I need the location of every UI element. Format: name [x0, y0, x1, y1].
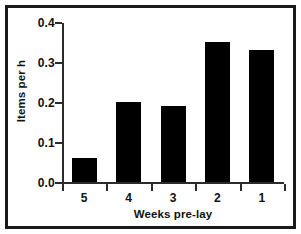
y-axis-line	[62, 23, 64, 183]
y-tick-group-1: 0.1	[0, 136, 55, 150]
x-tick-mark-1	[106, 184, 108, 191]
y-tick-mark-0	[55, 182, 62, 184]
x-tick-mark-4	[240, 184, 242, 191]
y-tick-group-0: 0.0	[0, 176, 55, 190]
bar-week-5	[72, 158, 97, 182]
x-tick-label-0: 5	[69, 191, 99, 205]
bar-week-2	[205, 42, 230, 182]
x-tick-label-4: 1	[247, 191, 277, 205]
plot-area: 0.0 0.1 0.2 0.3 0.4 5	[0, 0, 301, 234]
x-axis-line	[62, 182, 284, 184]
x-tick-mark-2	[151, 184, 153, 191]
y-tick-label-0: 0.0	[3, 176, 55, 190]
y-tick-label-2: 0.2	[3, 96, 55, 110]
x-tick-label-1: 4	[114, 191, 144, 205]
y-tick-group-2: 0.2	[0, 96, 55, 110]
y-tick-mark-2	[55, 102, 62, 104]
y-tick-group-3: 0.3	[0, 56, 55, 70]
y-tick-label-4: 0.4	[3, 16, 55, 30]
x-tick-label-2: 3	[158, 191, 188, 205]
bar-week-3	[161, 106, 186, 182]
x-tick-label-3: 2	[202, 191, 232, 205]
x-tick-mark-3	[195, 184, 197, 191]
y-tick-mark-1	[55, 142, 62, 144]
figure: 0.0 0.1 0.2 0.3 0.4 5	[0, 0, 301, 234]
x-tick-mark-0	[62, 184, 64, 191]
y-tick-group-4: 0.4	[0, 16, 55, 30]
y-tick-label-3: 0.3	[3, 56, 55, 70]
x-axis-title: Weeks pre-lay	[62, 208, 284, 220]
y-tick-mark-4	[55, 22, 62, 24]
bar-week-1	[249, 50, 274, 182]
y-tick-mark-3	[55, 62, 62, 64]
y-tick-label-1: 0.1	[3, 136, 55, 150]
y-axis-title: Items per h	[15, 46, 27, 136]
x-tick-mark-5	[284, 184, 286, 191]
bar-week-4	[116, 102, 141, 182]
